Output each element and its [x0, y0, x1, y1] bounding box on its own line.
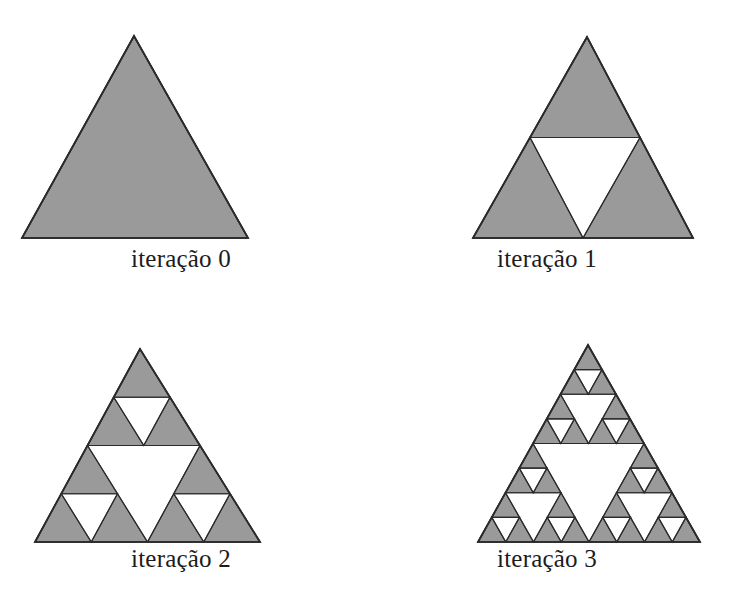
figure-panel-iteration-1: iteração 1 — [365, 0, 729, 303]
figure-panel-iteration-2: iteração 2 — [0, 303, 364, 606]
figure-grid: iteração 0 iteração 1 iteração 2 iteraçã… — [0, 0, 729, 606]
figure-panel-iteration-3: iteração 3 — [365, 303, 729, 606]
figure-panel-iteration-0: iteração 0 — [0, 0, 364, 303]
sierpinski-shapes-0 — [22, 36, 248, 238]
sierpinski-shapes-3 — [478, 345, 700, 542]
sierpinski-shapes-1 — [473, 37, 693, 238]
caption-iteration-3: iteração 3 — [365, 544, 729, 574]
caption-iteration-2: iteração 2 — [0, 544, 363, 574]
sierpinski-shapes-2 — [35, 349, 260, 542]
caption-iteration-0: iteração 0 — [0, 244, 363, 274]
caption-iteration-1: iteração 1 — [365, 244, 729, 274]
